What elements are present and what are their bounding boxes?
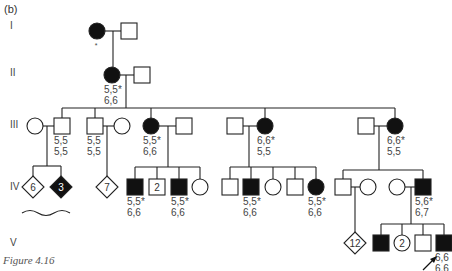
male-square-icon xyxy=(335,179,351,195)
individual-V-5: 6,66,6 xyxy=(435,235,452,271)
female-circle-icon xyxy=(27,118,43,134)
genotype-line: 6,6 xyxy=(435,252,449,263)
genotype-line: 6,6 xyxy=(171,207,185,218)
genotype-line: 5,5 xyxy=(87,135,101,146)
individual-V-2 xyxy=(373,235,389,251)
individual-III-2: 5,55,5 xyxy=(54,118,70,157)
generation-label: IV xyxy=(10,181,20,192)
genotype-line: 6,6 xyxy=(243,207,257,218)
individual-IV-14 xyxy=(360,179,376,195)
individual-III-5: 5,5*6,6 xyxy=(143,118,161,157)
individual-V-1: 12 xyxy=(344,232,366,254)
male-square-icon xyxy=(227,118,243,134)
male-square-icon xyxy=(436,235,452,251)
male-square-icon xyxy=(415,235,431,251)
generation-label: I xyxy=(10,20,13,31)
female-circle-icon xyxy=(257,118,273,134)
genotype-line: 5,5 xyxy=(387,146,401,157)
individual-IV-16: 5,6*6,7 xyxy=(415,179,433,218)
sibling-count: 2 xyxy=(399,238,405,249)
male-square-icon xyxy=(287,179,303,195)
generation-label: V xyxy=(10,237,17,248)
male-square-icon xyxy=(358,118,374,134)
sibling-count: 7 xyxy=(104,182,110,193)
genotype-line: 6,6* xyxy=(257,135,275,146)
individual-IV-13 xyxy=(335,179,351,195)
male-square-icon xyxy=(222,179,238,195)
individual-III-1 xyxy=(27,118,43,134)
female-circle-icon xyxy=(360,179,376,195)
genotype-line: 6,6* xyxy=(387,135,405,146)
individual-IV-7 xyxy=(192,179,208,195)
individual-IV-8 xyxy=(222,179,238,195)
male-square-icon xyxy=(134,67,150,83)
genotype-line: 5,5 xyxy=(257,146,271,157)
pedigree-diagram: IIIIIIIVV xyxy=(0,0,452,271)
individual-IV-4: 5,5*6,6 xyxy=(127,179,145,218)
genotype-line: 5,5* xyxy=(171,196,189,207)
genotype-line: 5,5* xyxy=(243,196,261,207)
individual-IV-2: 3 xyxy=(50,176,72,198)
female-circle-icon xyxy=(308,179,324,195)
sibling-count: 3 xyxy=(58,182,64,193)
genotype-line: 5,6* xyxy=(415,196,433,207)
genotype-line: 6,6 xyxy=(308,207,322,218)
individual-II-1: 5,5*6,6 xyxy=(104,67,122,106)
genotype-line: 5,5* xyxy=(104,84,122,95)
sibling-count: 6 xyxy=(30,182,36,193)
female-circle-icon xyxy=(192,179,208,195)
genotype-line: 6,6 xyxy=(104,95,118,106)
genotype-line: 5,5 xyxy=(54,135,68,146)
genotype-line: 5,5* xyxy=(127,196,145,207)
female-circle-icon xyxy=(114,118,130,134)
sibling-count: 12 xyxy=(349,238,361,249)
individual-V-4 xyxy=(415,235,431,251)
generation-labels: IIIIIIIVV xyxy=(10,20,20,248)
generation-label: II xyxy=(10,67,16,78)
female-circle-icon xyxy=(89,23,105,39)
female-circle-icon xyxy=(265,179,281,195)
figure-caption: Figure 4.16 xyxy=(3,254,55,266)
genotype-line: 6,6 xyxy=(435,263,449,271)
genotype-line: 5,5* xyxy=(308,196,326,207)
individual-IV-3: 7 xyxy=(96,176,118,198)
individual-I-2 xyxy=(121,23,137,39)
female-circle-icon xyxy=(387,118,403,134)
individual-V-3: 2 xyxy=(394,235,410,251)
individual-III-3: 5,55,5 xyxy=(87,118,103,157)
individual-III-9 xyxy=(358,118,374,134)
male-square-icon xyxy=(121,23,137,39)
male-square-icon xyxy=(87,118,103,134)
individual-II-2 xyxy=(134,67,150,83)
individual-IV-9: 5,5*6,6 xyxy=(243,179,261,218)
individual-III-6 xyxy=(176,118,192,134)
note-mark: * xyxy=(95,42,98,49)
individual-IV-12: 5,5*6,6 xyxy=(308,179,326,218)
individual-I-1: * xyxy=(89,23,105,49)
individual-III-8: 6,6*5,5 xyxy=(257,118,275,157)
individual-IV-5: 2 xyxy=(149,179,165,195)
individual-IV-6: 5,5*6,6 xyxy=(171,179,189,218)
individuals: *5,5*6,65,55,55,55,55,5*6,66,6*5,56,6*5,… xyxy=(22,23,452,271)
individual-IV-15 xyxy=(389,179,405,195)
female-circle-icon xyxy=(389,179,405,195)
male-square-icon xyxy=(171,179,187,195)
male-square-icon xyxy=(54,118,70,134)
individual-IV-10 xyxy=(265,179,281,195)
individual-IV-11 xyxy=(287,179,303,195)
individual-IV-1: 6 xyxy=(22,176,44,198)
generation-label: III xyxy=(10,119,18,130)
genotype-line: 5,5 xyxy=(54,146,68,157)
genotype-line: 6,6 xyxy=(127,207,141,218)
individual-III-7 xyxy=(227,118,243,134)
individual-III-10: 6,6*5,5 xyxy=(387,118,405,157)
sibling-count: 2 xyxy=(154,182,160,193)
male-square-icon xyxy=(373,235,389,251)
female-circle-icon xyxy=(104,67,120,83)
male-square-icon xyxy=(127,179,143,195)
genotype-line: 6,7 xyxy=(415,207,429,218)
female-circle-icon xyxy=(143,118,159,134)
male-square-icon xyxy=(415,179,431,195)
male-square-icon xyxy=(176,118,192,134)
genotype-line: 5,5 xyxy=(87,146,101,157)
